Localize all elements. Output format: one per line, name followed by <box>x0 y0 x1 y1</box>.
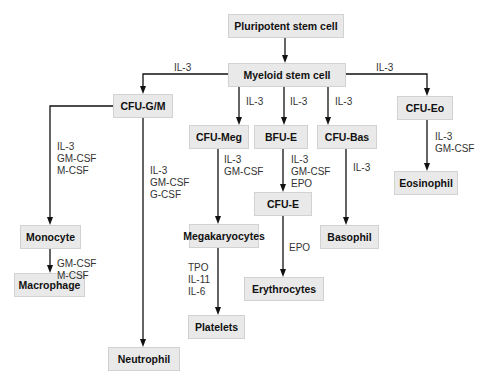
node-cfu-bas: CFU-Bas <box>317 125 377 149</box>
node-megakaryocytes: Megakaryocytes <box>189 224 259 248</box>
node-cfu-eo: CFU-Eo <box>397 96 453 120</box>
label-monocyte-to-macrophage: GM-CSF M-CSF <box>57 258 96 282</box>
node-neutrophil: Neutrophil <box>108 347 180 371</box>
node-bfu-e: BFU-E <box>254 125 308 149</box>
node-cfu-gm: CFU-G/M <box>113 94 173 118</box>
node-eosinophil: Eosinophil <box>394 171 458 195</box>
label-cfu-eo-to-eosinophil: IL-3 GM-CSF <box>435 131 474 155</box>
label-myeloid-to-cfu-gm: IL-3 <box>174 62 191 74</box>
label-myeloid-to-bfu-e: IL-3 <box>290 96 307 108</box>
label-megakaryocytes-to-platelets: TPO IL-11 IL-6 <box>188 262 210 298</box>
label-cfu-meg-to-megakaryocytes: IL-3 GM-CSF <box>224 154 263 178</box>
label-myeloid-to-cfu-bas: IL-3 <box>335 96 352 108</box>
label-cfu-bas-to-basophil: IL-3 <box>353 162 370 174</box>
node-erythrocytes: Erythrocytes <box>244 277 324 301</box>
label-myeloid-to-cfu-meg: IL-3 <box>246 96 263 108</box>
label-myeloid-to-cfu-eo: IL-3 <box>376 62 393 74</box>
node-pluripotent-stem-cell: Pluripotent stem cell <box>228 14 344 38</box>
label-cfu-gm-to-neutrophil: IL-3 GM-CSF G-CSF <box>150 165 189 201</box>
node-monocyte: Monocyte <box>20 225 81 249</box>
label-cfu-e-to-erythrocytes: EPO <box>289 242 310 254</box>
node-basophil: Basophil <box>320 225 379 249</box>
node-cfu-e: CFU-E <box>254 192 312 216</box>
label-bfu-e-to-cfu-e: IL-3 GM-CSF EPO <box>291 154 330 190</box>
node-myeloid-stem-cell: Myeloid stem cell <box>228 63 346 87</box>
label-cfu-gm-to-monocyte: IL-3 GM-CSF M-CSF <box>57 141 96 177</box>
node-cfu-meg: CFU-Meg <box>189 125 249 149</box>
node-platelets: Platelets <box>188 315 245 339</box>
